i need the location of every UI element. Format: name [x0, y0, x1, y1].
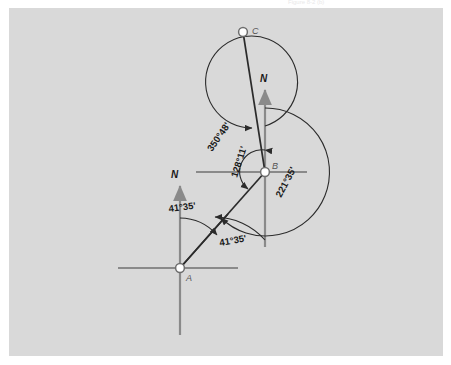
- angle-label-128-11: 128°11': [228, 145, 248, 179]
- angle-label-azimuth-bc: 350°48': [205, 120, 233, 153]
- north-label-a: N: [171, 169, 179, 180]
- station-point-c[interactable]: [239, 28, 248, 37]
- station-point-a[interactable]: [176, 264, 185, 273]
- traverse-lines: [180, 32, 265, 268]
- angle-label-bearing-at-b: 41°35': [218, 232, 247, 248]
- north-label-b: N: [260, 73, 268, 84]
- point-label-c: C: [252, 26, 259, 36]
- survey-diagram: A B C N N 350°48' 128°11' 221°35' 41°35'…: [0, 0, 451, 365]
- point-label-a: A: [185, 273, 192, 283]
- point-label-b: B: [272, 161, 278, 171]
- figure-root: Figure 8-2 (b): [0, 0, 451, 365]
- station-point-b[interactable]: [261, 168, 270, 177]
- angle-label-bearing-at-a: 41°35': [168, 200, 196, 214]
